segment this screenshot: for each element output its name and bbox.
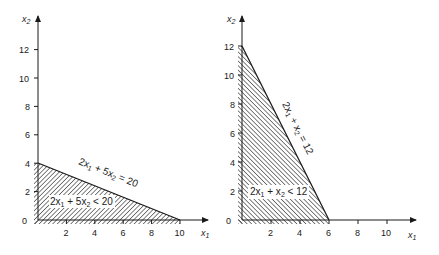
right-y-axis-label: x2 bbox=[226, 14, 236, 25]
right-y-tick-6: 6 bbox=[230, 129, 235, 139]
right-plot: 0 2 4 6 8 10 12 2 4 6 8 10 x2 x1 2x1 + x… bbox=[224, 14, 417, 241]
left-y-tick-2: 2 bbox=[25, 187, 30, 197]
right-x-tick-6: 6 bbox=[326, 228, 331, 238]
right-x-tick-2: 2 bbox=[268, 228, 273, 238]
left-y-tick-6: 6 bbox=[25, 130, 30, 140]
diagram-canvas: 0 2 4 6 8 10 12 2 4 6 8 10 x2 x1 2x1 + 5… bbox=[0, 0, 439, 255]
right-y-tick-10: 10 bbox=[224, 71, 234, 81]
right-axis-hatch-y bbox=[238, 46, 242, 224]
left-x-axis-label: x1 bbox=[200, 228, 210, 239]
left-y-axis-label: x2 bbox=[21, 14, 31, 25]
left-x-tick-10: 10 bbox=[175, 228, 185, 238]
left-region-inequality-label: 2x1 + 5x2 < 20 bbox=[50, 196, 113, 208]
right-x-tick-10: 10 bbox=[381, 228, 391, 238]
left-x-tick-8: 8 bbox=[149, 228, 154, 238]
left-y-tick-10: 10 bbox=[19, 74, 29, 84]
right-x-tick-4: 4 bbox=[297, 228, 302, 238]
right-y-tick-4: 4 bbox=[230, 158, 235, 168]
left-axis-hatch-y bbox=[34, 163, 38, 224]
left-x-tick-2: 2 bbox=[64, 228, 69, 238]
right-region-inequality-label: 2x1 + x2 < 12 bbox=[250, 186, 308, 198]
left-axis-hatch-x bbox=[34, 220, 180, 224]
right-x-axis-label: x1 bbox=[407, 230, 417, 241]
left-y-tick-4: 4 bbox=[25, 159, 30, 169]
right-y-tick-12: 12 bbox=[224, 42, 234, 52]
left-y-tick-12: 12 bbox=[19, 45, 29, 55]
right-axis-hatch-x bbox=[238, 220, 329, 224]
left-x-tick-6: 6 bbox=[121, 228, 126, 238]
right-x-tick-8: 8 bbox=[355, 228, 360, 238]
right-y-tick-2: 2 bbox=[230, 187, 235, 197]
right-y-tick-8: 8 bbox=[230, 100, 235, 110]
left-plot: 0 2 4 6 8 10 12 2 4 6 8 10 x2 x1 2x1 + 5… bbox=[19, 14, 210, 239]
left-y-tick-0: 0 bbox=[22, 216, 27, 226]
left-y-tick-8: 8 bbox=[25, 102, 30, 112]
left-x-tick-4: 4 bbox=[92, 228, 97, 238]
right-y-tick-0: 0 bbox=[226, 216, 231, 226]
